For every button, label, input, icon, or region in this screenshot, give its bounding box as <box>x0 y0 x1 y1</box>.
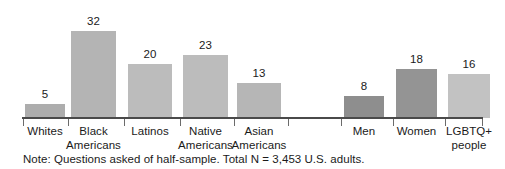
value-label-lgbtq-people: 16 <box>436 58 502 70</box>
bar-group-asian-americans: 13 <box>237 0 281 118</box>
bar-whites <box>25 104 65 118</box>
bar-lgbtq-people <box>448 74 490 118</box>
chart-footnote: Note: Questions asked of half-sample. To… <box>23 152 365 166</box>
category-label-line1-men: Men <box>353 125 376 137</box>
x-axis-tick-0 <box>23 119 24 126</box>
value-label-black-americans: 32 <box>59 15 128 27</box>
bar-women <box>396 69 437 118</box>
category-label-line2-lgbtq-people: people <box>434 139 504 153</box>
bar-group-native-americans: 23 <box>183 0 228 118</box>
bar-group-men: 8 <box>344 0 384 118</box>
x-axis-tick-3 <box>180 119 181 126</box>
bar-group-lgbtq-people: 16 <box>448 0 490 118</box>
plot-area: 53220231381816 <box>0 0 505 118</box>
category-label-line2-black-americans: Americans <box>57 139 130 153</box>
x-axis-tick-5 <box>288 119 289 126</box>
x-axis-tick-9 <box>482 119 483 126</box>
category-label-line2-asian-americans: Americans <box>223 139 295 153</box>
category-label-line1-native-americans: Native <box>189 125 222 137</box>
x-axis-line <box>22 117 483 119</box>
bar-native-americans <box>183 55 228 118</box>
x-axis-tick-4 <box>234 119 235 126</box>
x-axis-tick-2 <box>124 119 125 126</box>
bar-group-women: 18 <box>396 0 437 118</box>
bar-latinos <box>128 64 172 118</box>
bar-chart: 53220231381816 Note: Questions asked of … <box>0 0 505 169</box>
category-label-line1-black-americans: Black <box>79 125 107 137</box>
value-label-whites: 5 <box>13 88 77 100</box>
bar-group-black-americans: 32 <box>71 0 116 118</box>
bar-asian-americans <box>237 83 281 118</box>
category-label-line1-lgbtq-people: LGBTQ+ <box>446 125 492 137</box>
value-label-native-americans: 23 <box>171 39 240 51</box>
x-axis-tick-6 <box>341 119 342 126</box>
category-label-lgbtq-people: LGBTQ+people <box>434 125 504 152</box>
value-label-asian-americans: 13 <box>225 67 293 79</box>
category-label-line1-latinos: Latinos <box>131 125 168 137</box>
category-label-asian-americans: AsianAmericans <box>223 125 295 152</box>
x-axis-tick-1 <box>68 119 69 126</box>
bar-black-americans <box>71 31 116 118</box>
x-axis-tick-7 <box>393 119 394 126</box>
category-label-line1-asian-americans: Asian <box>244 125 273 137</box>
value-label-men: 8 <box>332 80 396 92</box>
bar-men <box>344 96 384 118</box>
x-axis-tick-8 <box>445 119 446 126</box>
bar-group-latinos: 20 <box>128 0 172 118</box>
category-label-line1-women: Women <box>397 125 437 137</box>
